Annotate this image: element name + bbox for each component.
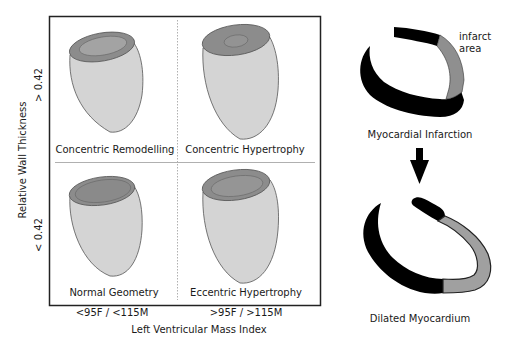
y-axis-lower-threshold: < 0.42 (33, 218, 44, 252)
x-axis-left-threshold: <95F / <115M (76, 307, 149, 318)
infarct-label-line2: area (459, 43, 481, 54)
concentric-remodelling-ventricle (67, 27, 143, 132)
infarct-label-line1: infarct (459, 31, 491, 42)
label-concentric-remodelling: Concentric Remodelling (56, 144, 175, 155)
y-axis-title: Relative Wall Thickness (17, 101, 28, 218)
y-axis-upper-threshold: > 0.42 (33, 68, 44, 102)
x-axis-right-threshold: >95F / >115M (210, 307, 283, 318)
dilated-caption: Dilated Myocardium (370, 313, 470, 324)
mi-caption: Myocardial Infarction (368, 129, 473, 140)
normal-geometry-ventricle (67, 173, 142, 277)
myocardial-infarction-shape (360, 27, 464, 117)
label-concentric-hypertrophy: Concentric Hypertrophy (185, 144, 305, 155)
x-axis-title: Left Ventricular Mass Index (131, 324, 266, 335)
label-eccentric-hypertrophy: Eccentric Hypertrophy (190, 287, 302, 298)
concentric-hypertrophy-ventricle (200, 20, 278, 139)
progression-arrow-icon (410, 148, 429, 184)
eccentric-hypertrophy-ventricle (200, 165, 278, 283)
dilated-myocardium-shape (363, 197, 490, 294)
label-normal-geometry: Normal Geometry (69, 287, 158, 298)
